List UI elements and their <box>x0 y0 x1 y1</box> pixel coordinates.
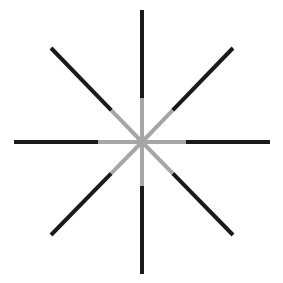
ray-outer-down-left <box>51 173 111 235</box>
ray-inner-up-right <box>142 110 173 142</box>
ray-outer-down-right <box>173 173 233 235</box>
ray-inner-down-left <box>111 142 142 173</box>
ray-inner-up-left <box>111 110 142 142</box>
inner-gray-segments <box>98 98 186 186</box>
star-illusion <box>0 0 283 283</box>
ray-outer-up-right <box>173 48 233 110</box>
ray-inner-down-right <box>142 142 173 173</box>
ray-outer-up-left <box>51 48 111 110</box>
